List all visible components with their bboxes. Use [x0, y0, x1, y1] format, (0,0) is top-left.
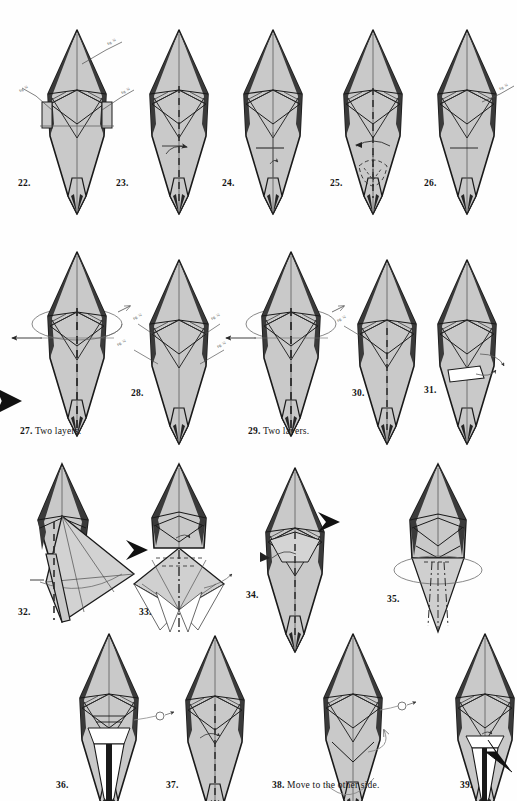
diagram-layer: fig. 32 fig. 32 fig. 32 [0, 0, 517, 801]
step-caption-24: 24. [222, 178, 234, 188]
step-caption-27: 27. Two layers. [20, 426, 81, 436]
step-caption-39: 39. [460, 780, 472, 790]
step-caption-38-text: Move to the other side. [287, 780, 379, 790]
step-caption-37: 37. [166, 780, 178, 790]
step-caption-26: 26. [424, 178, 436, 188]
figure-32 [30, 464, 148, 622]
figure-25 [344, 30, 402, 214]
step-caption-23: 23. [116, 178, 128, 188]
svg-text:fig. 32: fig. 32 [132, 312, 142, 320]
step-caption-28: 28. [131, 388, 143, 398]
figure-37 [186, 636, 244, 801]
svg-text:fig. 32: fig. 32 [107, 38, 117, 46]
figure-28: fig. 32 fig. 32 fig. 32 fig. 32 [116, 260, 226, 444]
step-caption-38: 38. Move to the other side. [272, 780, 380, 790]
figure-39 [456, 634, 514, 801]
step-caption-22: 22. [18, 178, 30, 188]
page-canvas: fig. 32 fig. 32 fig. 32 [0, 0, 517, 801]
figure-30: fig. 32 [336, 260, 416, 444]
svg-text:fig. 32: fig. 32 [121, 87, 131, 95]
svg-text:fig. 32: fig. 32 [216, 340, 226, 348]
svg-text:fig. 32: fig. 32 [336, 314, 346, 322]
step-caption-25: 25. [330, 178, 342, 188]
figure-36 [80, 634, 174, 801]
magnifier-icon [380, 702, 416, 710]
figure-38 [324, 634, 416, 801]
figure-24 [244, 30, 302, 214]
step-caption-33: 33. [139, 607, 151, 617]
magnifier-icon [134, 712, 174, 720]
step-caption-29: 29. Two layers. [248, 426, 309, 436]
figure-26: fig. 32 [438, 30, 514, 214]
figure-27 [12, 252, 130, 436]
step-caption-34: 34. [246, 590, 258, 600]
step-caption-27-text: Two layers. [35, 426, 81, 436]
step-caption-36: 36. [56, 780, 68, 790]
figure-35 [394, 464, 482, 632]
figure-29 [226, 252, 344, 436]
step-caption-30: 30. [352, 388, 364, 398]
figure-34 [260, 468, 340, 652]
svg-text:fig. 32: fig. 32 [19, 85, 29, 93]
svg-text:fig. 32: fig. 32 [210, 312, 220, 320]
step-caption-29-text: Two layers. [263, 426, 309, 436]
step-caption-35: 35. [387, 594, 399, 604]
step-caption-31: 31. [424, 385, 436, 395]
figure-23 [150, 30, 208, 214]
figure-31 [438, 260, 504, 444]
step-caption-32: 32. [18, 607, 30, 617]
svg-text:fig. 32: fig. 32 [116, 338, 126, 346]
